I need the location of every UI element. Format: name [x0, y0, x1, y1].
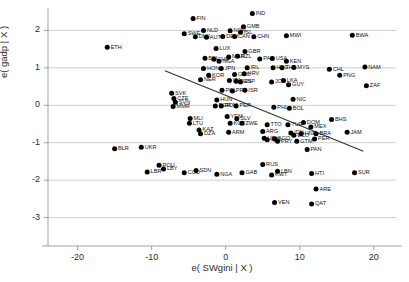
- data-point: [305, 147, 310, 152]
- data-point: [234, 104, 239, 109]
- data-point: [219, 104, 224, 109]
- data-point: [228, 121, 233, 126]
- data-point-label: CAN: [238, 33, 250, 39]
- data-point: [275, 139, 280, 144]
- data-point: [201, 66, 206, 71]
- data-point: [291, 65, 296, 70]
- data-point: [227, 78, 232, 83]
- data-point-label: DZA: [204, 130, 215, 136]
- data-point-label: NLD: [207, 27, 218, 33]
- data-point: [284, 33, 289, 38]
- data-point-label: PRY: [281, 138, 293, 144]
- data-point: [220, 34, 225, 39]
- data-point: [169, 91, 174, 96]
- data-point: [191, 16, 196, 21]
- data-point-label: MEX: [314, 123, 326, 129]
- data-point: [112, 146, 117, 151]
- data-point: [225, 114, 230, 119]
- y-tick-label: -1: [14, 137, 40, 147]
- data-point: [329, 117, 334, 122]
- data-point-label: PER: [318, 135, 330, 141]
- data-point: [345, 130, 350, 135]
- data-point-label: LUX: [219, 45, 230, 51]
- data-point-label: COD: [188, 169, 200, 175]
- data-point: [284, 59, 289, 64]
- data-point-label: GAB: [245, 169, 257, 175]
- data-point: [214, 46, 219, 51]
- y-tick-label: -2: [14, 174, 40, 184]
- x-tick-label: -20: [63, 252, 93, 262]
- data-point-label: TUR: [291, 121, 303, 127]
- data-point-label: BHS: [335, 116, 347, 122]
- data-point-label: NER: [204, 76, 216, 82]
- data-point: [327, 67, 332, 72]
- data-point: [187, 121, 192, 126]
- partial-regression-plot: FININDGMBNLDNORSWEISLDNKAUTDEUCANCHNMWIB…: [0, 0, 409, 282]
- data-point-label: NAM: [368, 64, 381, 70]
- data-point: [364, 83, 369, 88]
- data-point: [265, 122, 270, 127]
- data-point: [235, 54, 240, 59]
- data-point: [198, 131, 203, 136]
- data-point: [193, 34, 198, 39]
- data-point: [308, 124, 313, 129]
- x-tick-label: 20: [359, 252, 389, 262]
- data-point: [270, 56, 275, 61]
- data-point-label: JPN: [225, 65, 236, 71]
- data-point-label: PHL: [277, 104, 288, 110]
- data-point: [260, 162, 265, 167]
- data-point-label: MYS: [297, 64, 309, 70]
- data-point: [285, 122, 290, 127]
- data-point: [145, 169, 150, 174]
- data-point-label: PNG: [343, 72, 355, 78]
- data-point: [139, 145, 144, 150]
- data-point: [202, 56, 207, 61]
- data-point: [105, 45, 110, 50]
- x-tick-label: -10: [137, 252, 167, 262]
- data-point-label: ARE: [319, 186, 331, 192]
- data-point: [350, 33, 355, 38]
- data-point: [230, 89, 235, 94]
- data-point: [242, 71, 247, 76]
- data-point-label: GTM: [300, 138, 313, 144]
- data-point-label: HRV: [248, 70, 260, 76]
- plot-area: FININDGMBNLDNORSWEISLDNKAUTDEUCANCHNMWIB…: [48, 8, 396, 240]
- data-point-label: RUS: [266, 161, 278, 167]
- data-point-label: JAM: [351, 129, 363, 135]
- data-point: [352, 170, 357, 175]
- data-point: [226, 130, 231, 135]
- data-point: [157, 163, 162, 168]
- data-point-label: NIC: [296, 96, 306, 102]
- y-tick-label: 1: [14, 62, 40, 72]
- data-point-label: IND: [256, 10, 266, 16]
- data-point-label: LTU: [193, 120, 203, 126]
- data-point-label: QAT: [315, 200, 327, 206]
- data-point: [362, 65, 367, 70]
- data-point-label: ZAF: [370, 82, 381, 88]
- data-point-label: ZWE: [245, 120, 258, 126]
- data-point-label: NGA: [220, 171, 232, 177]
- data-point: [287, 106, 292, 111]
- data-point-label: MWI: [290, 32, 302, 38]
- data-point: [337, 73, 342, 78]
- data-point: [232, 34, 237, 39]
- data-point: [219, 66, 224, 71]
- data-point: [171, 104, 176, 109]
- data-point: [198, 77, 203, 82]
- data-point: [260, 129, 265, 134]
- data-point: [234, 79, 239, 84]
- data-point-label: ETH: [111, 44, 122, 50]
- data-point: [309, 171, 314, 176]
- data-point: [239, 170, 244, 175]
- data-point: [279, 65, 284, 70]
- data-point: [262, 136, 267, 141]
- data-point: [220, 88, 225, 93]
- data-point-label: PAN: [311, 146, 322, 152]
- data-point-label: LBR: [151, 168, 162, 174]
- data-point: [286, 82, 291, 87]
- data-point-label: BLR: [118, 145, 129, 151]
- data-point: [242, 88, 247, 93]
- data-point-label: TTO: [271, 121, 283, 127]
- y-tick-label: 2: [14, 24, 40, 34]
- data-point-label: CHN: [257, 33, 269, 39]
